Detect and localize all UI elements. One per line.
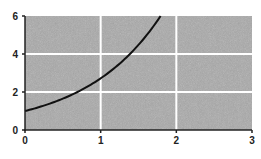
y-tick-label: 6 <box>12 11 18 22</box>
x-tick-label: 1 <box>98 135 104 146</box>
y-tick-label: 0 <box>12 125 18 136</box>
y-axis-ticks: 0246 <box>12 11 25 136</box>
x-tick-label: 0 <box>22 135 28 146</box>
y-tick-label: 4 <box>12 49 18 60</box>
x-tick-label: 2 <box>174 135 180 146</box>
plot-area <box>25 16 252 130</box>
plot-texture <box>25 16 252 130</box>
x-axis-ticks: 0123 <box>22 130 255 146</box>
x-tick-label: 3 <box>249 135 255 146</box>
chart: 0123 0246 <box>0 0 261 159</box>
y-tick-label: 2 <box>12 87 18 98</box>
